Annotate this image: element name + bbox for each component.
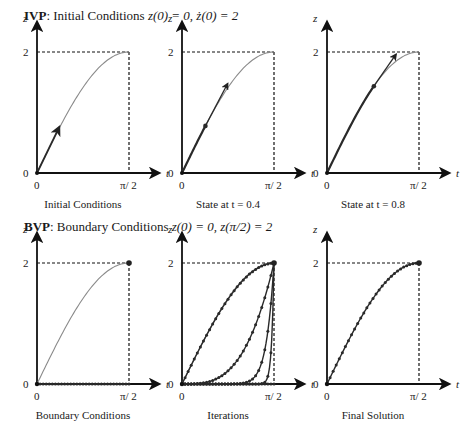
grid-point xyxy=(266,285,269,288)
origin-point xyxy=(35,171,39,175)
grid-point xyxy=(115,383,118,386)
x-tick-0: 0 xyxy=(324,179,330,191)
x-tick-0: 0 xyxy=(34,179,40,191)
y-tick-2: 2 xyxy=(313,46,319,58)
grid-point xyxy=(214,317,217,320)
grid-point xyxy=(257,382,260,385)
grid-point xyxy=(230,382,233,385)
true-solution-curve xyxy=(182,52,274,173)
grid-point xyxy=(396,270,399,273)
grid-point xyxy=(202,381,205,384)
grid-point xyxy=(205,334,208,337)
grid-point xyxy=(245,275,248,278)
grid-point xyxy=(227,382,230,385)
grid-point xyxy=(72,383,75,386)
velocity-arrow xyxy=(205,84,227,126)
grid-point xyxy=(378,288,381,291)
grid-point xyxy=(233,382,236,385)
grid-point xyxy=(109,383,112,386)
grid-point xyxy=(242,349,245,352)
grid-point xyxy=(347,339,350,342)
boundary-point-start xyxy=(35,382,39,386)
grid-point xyxy=(223,382,226,385)
panel-caption: State at t = 0.8 xyxy=(341,198,405,210)
grid-point xyxy=(208,382,211,385)
grid-point xyxy=(399,267,402,270)
grid-point xyxy=(239,282,242,285)
grid-point xyxy=(199,382,202,385)
grid-point xyxy=(269,383,272,386)
trajectory-so-far xyxy=(327,86,374,173)
grid-point xyxy=(260,361,263,364)
grid-point xyxy=(208,328,211,331)
grid-point xyxy=(245,344,248,347)
grid-point xyxy=(329,376,332,379)
grid-point xyxy=(236,382,239,385)
grid-point xyxy=(217,382,220,385)
grid-point xyxy=(236,359,239,362)
panel-caption: Iterations xyxy=(207,409,249,421)
grid-point xyxy=(402,266,405,269)
grid-point xyxy=(266,262,269,265)
grid-point xyxy=(214,382,217,385)
grid-point xyxy=(211,382,214,385)
grid-point xyxy=(199,346,202,349)
grid-point xyxy=(94,383,97,386)
boundary-point-end xyxy=(416,260,422,266)
grid-point xyxy=(230,293,233,296)
panel-caption: Boundary Conditions xyxy=(36,409,130,421)
y-axis-label: z xyxy=(167,223,173,235)
grid-point xyxy=(266,375,269,378)
grid-point xyxy=(353,328,356,331)
bvp-panel-2: zt200π/ 2Iterations xyxy=(167,223,315,421)
grid-point xyxy=(260,265,263,268)
boundary-point-end xyxy=(271,260,277,266)
grid-point xyxy=(257,315,260,318)
y-tick-0: 0 xyxy=(168,378,174,390)
x-axis-label: t xyxy=(456,378,460,390)
panel-caption: State at t = 0.4 xyxy=(196,198,260,210)
grid-point xyxy=(362,311,365,314)
grid-point xyxy=(106,383,109,386)
grid-point xyxy=(341,351,344,354)
grid-point xyxy=(260,306,263,309)
grid-point xyxy=(257,266,260,269)
x-tick-pi-half: π/ 2 xyxy=(410,179,427,191)
boundary-point-end xyxy=(126,260,132,266)
grid-point xyxy=(344,345,347,348)
grid-point xyxy=(60,383,63,386)
y-tick-0: 0 xyxy=(23,167,29,179)
grid-point xyxy=(54,383,57,386)
grid-point xyxy=(269,351,272,354)
grid-point xyxy=(384,281,387,284)
grid-point xyxy=(368,302,371,305)
grid-point xyxy=(254,382,257,385)
grid-point xyxy=(263,296,266,299)
grid-point xyxy=(251,378,254,381)
boundary-point-start xyxy=(180,382,184,386)
grid-point xyxy=(356,322,359,325)
y-tick-2: 2 xyxy=(168,257,174,269)
grid-point xyxy=(220,307,223,310)
grid-point xyxy=(381,285,384,288)
grid-point xyxy=(372,297,375,300)
grid-point xyxy=(103,383,106,386)
grid-point xyxy=(78,383,81,386)
y-tick-0: 0 xyxy=(313,378,319,390)
grid-point xyxy=(350,333,353,336)
x-tick-0: 0 xyxy=(179,179,185,191)
grid-point xyxy=(236,285,239,288)
grid-point xyxy=(239,354,242,357)
grid-point xyxy=(112,383,115,386)
grid-point xyxy=(387,278,390,281)
grid-point xyxy=(227,298,230,301)
grid-point xyxy=(251,270,254,273)
grid-point xyxy=(223,302,226,305)
grid-point xyxy=(254,323,257,326)
y-axis-label: z xyxy=(22,12,28,24)
panel-caption: Initial Conditions xyxy=(44,198,121,210)
grid-point xyxy=(118,383,121,386)
grid-point xyxy=(196,382,199,385)
x-axis-label: t xyxy=(456,167,460,179)
grid-point xyxy=(411,262,414,265)
